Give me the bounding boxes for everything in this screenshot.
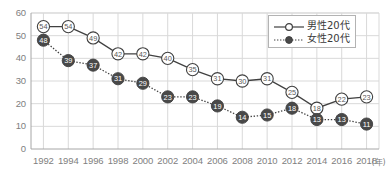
x-axis-unit-label: (年) bbox=[369, 156, 387, 167]
data-point-marker bbox=[87, 59, 99, 71]
data-point-marker bbox=[162, 91, 174, 103]
data-point-marker bbox=[286, 102, 298, 114]
legend-swatch-female-line bbox=[274, 32, 304, 44]
data-point-marker bbox=[211, 73, 223, 85]
data-point-marker bbox=[162, 52, 174, 64]
data-point-marker bbox=[336, 113, 348, 125]
data-point-marker bbox=[211, 100, 223, 112]
data-point-marker bbox=[311, 113, 323, 125]
data-point-marker bbox=[87, 32, 99, 44]
y-axis-tick-label: 50 bbox=[0, 30, 26, 41]
y-axis-tick-label: 0 bbox=[0, 143, 26, 154]
data-point-marker bbox=[137, 48, 149, 60]
y-axis-tick-label: 20 bbox=[0, 98, 26, 109]
data-point-marker bbox=[286, 86, 298, 98]
y-axis-tick-label: 10 bbox=[0, 120, 26, 131]
data-point-marker bbox=[186, 91, 198, 103]
chart-legend: 男性20代 女性20代 bbox=[268, 15, 356, 48]
data-point-marker bbox=[112, 73, 124, 85]
y-axis-tick-label: 60 bbox=[0, 7, 26, 18]
data-point-marker bbox=[261, 73, 273, 85]
legend-item-female: 女性20代 bbox=[274, 31, 350, 44]
data-point-marker bbox=[311, 102, 323, 114]
data-point-marker bbox=[37, 34, 49, 46]
y-axis-tick-label: 40 bbox=[0, 52, 26, 63]
data-point-marker bbox=[236, 75, 248, 87]
line-chart: 5454494242403531303125182223483937312923… bbox=[0, 0, 387, 178]
data-point-marker bbox=[62, 21, 74, 33]
data-point-marker bbox=[336, 93, 348, 105]
series-female: 4839373129232319141518131311 bbox=[37, 34, 372, 130]
legend-label-female: 女性20代 bbox=[307, 30, 350, 45]
data-point-marker bbox=[360, 91, 372, 103]
legend-swatch-male-line bbox=[274, 19, 304, 31]
data-point-marker bbox=[186, 64, 198, 76]
data-point-marker bbox=[236, 111, 248, 123]
data-point-marker bbox=[62, 55, 74, 67]
data-point-marker bbox=[360, 118, 372, 130]
data-point-marker bbox=[137, 77, 149, 89]
data-point-marker bbox=[37, 21, 49, 33]
data-point-marker bbox=[261, 109, 273, 121]
y-axis-tick-label: 30 bbox=[0, 75, 26, 86]
data-point-marker bbox=[112, 48, 124, 60]
